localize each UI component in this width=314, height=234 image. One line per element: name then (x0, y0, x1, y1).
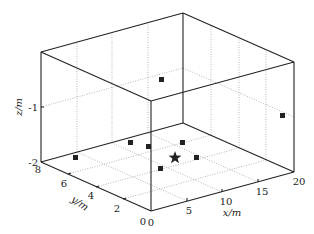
x-tick-labels: 0 5 10 15 20 (148, 176, 306, 228)
floor-grid (68, 133, 266, 201)
x-tick-5: 5 (186, 205, 192, 216)
point-marker (158, 166, 163, 171)
point-marker (159, 77, 164, 82)
point-marker (180, 140, 185, 145)
z-tick-neg1: -1 (28, 102, 38, 113)
y-tick-4: 4 (88, 190, 94, 201)
x-axis-label: x/m (223, 207, 242, 218)
y-tick-labels: 0 2 4 6 8 (35, 164, 146, 227)
point-marker (146, 144, 151, 149)
y-tick-6: 6 (61, 178, 67, 189)
back-wall-grid (41, 23, 294, 160)
z-tick-neg2: -2 (28, 157, 38, 168)
y-tick-0: 0 (140, 216, 146, 227)
axes-box (41, 13, 294, 211)
point-marker (194, 155, 199, 160)
point-marker (128, 140, 133, 145)
point-marker (73, 155, 78, 160)
3d-scatter-chart: 0 5 10 15 20 0 2 4 6 8 -2 -1 x/m y/m z/m (0, 0, 314, 234)
point-marker (280, 113, 285, 118)
x-tick-0: 0 (148, 217, 154, 228)
y-tick-2: 2 (114, 203, 120, 214)
z-axis-label: z/m (13, 98, 24, 117)
x-tick-15: 15 (256, 186, 269, 197)
x-tick-10: 10 (220, 196, 233, 207)
star-marker-icon (169, 151, 182, 163)
z-tick-labels: -2 -1 (28, 102, 38, 168)
x-tick-20: 20 (293, 176, 306, 187)
